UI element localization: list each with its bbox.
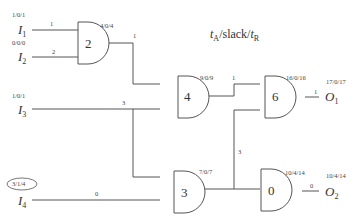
svg-text:3/1/4: 3/1/4	[12, 180, 26, 187]
input-i4: 3/1/4 I4	[7, 178, 37, 210]
svg-text:I3: I3	[17, 102, 26, 119]
svg-text:0/0/0: 0/0/0	[12, 39, 25, 46]
input-i2: 0/0/0 I2	[12, 39, 26, 66]
svg-text:4: 4	[184, 89, 191, 104]
gate-3-timing: 7/0/7	[199, 168, 213, 175]
svg-text:I4: I4	[17, 193, 26, 210]
wire-delay-g2: 1	[133, 32, 136, 39]
gate-2-timing: 4/0/4	[100, 22, 114, 29]
gate-0-timing: 10/4/14	[285, 169, 306, 176]
gate-6-timing: 16/0/16	[286, 74, 307, 81]
timing-circuit-diagram: tA/slack/tR 2 4 6 3 0 4/0/4 9/0/9 16/0/1…	[0, 0, 358, 223]
output-o1: 17/0/17 O1	[325, 78, 347, 106]
wire-delay-g3: 3	[238, 148, 241, 155]
wire-delay-g0: 0	[310, 182, 313, 189]
gate-4-timing: 9/0/9	[200, 74, 213, 81]
svg-text:0: 0	[268, 183, 275, 198]
output-o2: 10/4/14 O2	[325, 172, 347, 201]
wire-delay-g6: 1	[314, 88, 317, 95]
gate-3: 3	[174, 171, 205, 213]
svg-text:6: 6	[272, 89, 279, 104]
wire-delay-i1: 1	[50, 20, 53, 27]
input-i3: 1/0/1 I3	[12, 92, 26, 119]
wire-delay-g4: 1	[232, 74, 235, 81]
svg-text:I1: I1	[17, 22, 26, 39]
input-i1: 1/0/1 I1	[12, 11, 26, 39]
svg-text:10/4/14: 10/4/14	[326, 172, 347, 179]
gate-4: 4	[178, 76, 209, 118]
wire-delay-i2: 2	[52, 48, 55, 55]
svg-text:1/0/1: 1/0/1	[12, 92, 25, 99]
svg-text:1/0/1: 1/0/1	[12, 11, 25, 18]
wire-delay-i4: 0	[95, 190, 98, 197]
svg-text:O1: O1	[325, 89, 338, 106]
svg-text:2: 2	[85, 36, 92, 51]
svg-text:O2: O2	[325, 184, 338, 201]
legend-title: tA/slack/tR	[210, 27, 260, 43]
gate-6: 6	[265, 76, 296, 118]
svg-text:3: 3	[181, 185, 188, 200]
svg-text:I2: I2	[17, 49, 26, 66]
svg-text:17/0/17: 17/0/17	[326, 78, 347, 85]
wire-delay-i3: 3	[122, 99, 125, 106]
